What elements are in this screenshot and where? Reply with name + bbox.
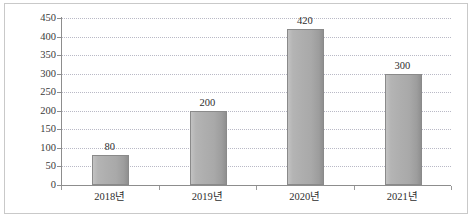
x-axis-category-label: 2018년 [65,191,155,203]
y-axis-tick-label: 250 [10,87,56,97]
y-axis-tick [57,74,61,75]
x-axis-tick [159,186,160,190]
y-axis-tick-label: 0 [10,180,56,190]
y-axis-tick-label: 450 [10,13,56,23]
bar-value-label: 300 [372,60,432,71]
gridline [62,37,451,38]
x-axis-tick [354,186,355,190]
y-axis-tick-label: 200 [10,106,56,116]
x-axis-category-label: 2019년 [162,191,252,203]
y-axis-tick-label: 100 [10,143,56,153]
gridline [62,18,451,19]
plot-area [62,18,451,185]
x-axis-category-label: 2021년 [357,191,447,203]
y-axis-tick [57,129,61,130]
y-axis-tick [57,166,61,167]
bar-value-label: 200 [177,97,237,108]
gridline [62,55,451,56]
x-axis-tick [256,186,257,190]
x-axis-tick [61,186,62,190]
y-axis-labels: 050100150200250300350400450 [8,0,56,219]
y-axis-tick [57,148,61,149]
y-axis-tick-label: 350 [10,50,56,60]
x-axis-category-label: 2020년 [260,191,350,203]
y-axis-tick [57,111,61,112]
bar[interactable] [385,74,422,185]
y-axis-tick [57,18,61,19]
y-axis-tick [57,55,61,56]
bar[interactable] [287,29,324,185]
y-axis-tick-label: 50 [10,161,56,171]
x-axis-tick [451,186,452,190]
bar-value-label: 420 [275,15,335,26]
y-axis-tick-label: 400 [10,32,56,42]
bar[interactable] [92,155,129,185]
y-axis-tick-label: 300 [10,69,56,79]
bar[interactable] [190,111,227,185]
y-axis-tick-label: 150 [10,124,56,134]
bar-value-label: 80 [80,141,140,152]
y-axis-tick [57,37,61,38]
y-axis-tick [57,92,61,93]
